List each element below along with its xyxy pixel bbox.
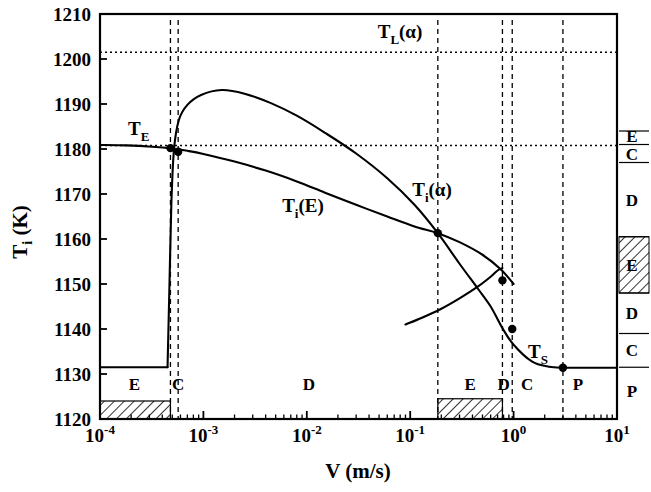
data-point: [498, 276, 506, 284]
right-column-label: P: [627, 382, 637, 401]
data-point: [174, 148, 182, 156]
svg-text:10-1: 10-1: [395, 422, 425, 446]
region-label: C: [172, 375, 184, 394]
right-column-label: D: [626, 191, 638, 210]
x-tick-label: 10-1: [395, 422, 425, 446]
y-axis-title: Ti (K): [8, 205, 35, 258]
right-column-label: D: [626, 304, 638, 323]
data-point: [508, 325, 516, 333]
data-point: [166, 144, 174, 152]
x-tick-label: 100: [501, 422, 527, 446]
y-tick-label: 1160: [54, 229, 91, 250]
bottom-region-labels: ECDEDCP: [129, 375, 584, 394]
svg-text:Ti (K): Ti (K): [8, 205, 35, 258]
annotation-t-i-a: Ti(α): [412, 179, 452, 205]
svg-text:TE: TE: [128, 118, 149, 144]
right-column-label: C: [626, 145, 638, 164]
region-label: P: [573, 375, 583, 394]
right-column-label: E: [626, 256, 637, 275]
y-tick-label: 1130: [54, 364, 91, 385]
svg-text:TL(α): TL(α): [378, 21, 423, 47]
hatched-bands: [100, 399, 502, 419]
right-legend-column: ECDEDCP: [619, 127, 649, 400]
y-tick-label: 1200: [53, 49, 91, 70]
x-tick-labels: 10-410-310-210-1100101: [85, 422, 630, 446]
y-tick-label: 1150: [54, 274, 91, 295]
y-tick-label: 1210: [53, 4, 91, 25]
data-point: [559, 364, 567, 372]
svg-text:100: 100: [501, 422, 527, 446]
phase-selection-chart: 1120113011401150116011701180119012001210…: [0, 0, 651, 492]
x-tick-label: 10-4: [85, 422, 115, 446]
hatched-band: [438, 399, 503, 419]
data-point: [434, 229, 442, 237]
annotation-t-e: TE: [128, 118, 149, 144]
curve-annotations: TETL(α)Ti(α)Ti(E)TS: [128, 21, 548, 367]
data-point-markers: [166, 144, 567, 372]
y-axis-title-unit: (K): [8, 205, 32, 241]
region-label: E: [129, 375, 140, 394]
x-axis-title: V (m/s): [325, 459, 391, 483]
svg-text:10-3: 10-3: [188, 422, 218, 446]
region-label: E: [464, 375, 475, 394]
svg-text:Ti(E): Ti(E): [282, 195, 324, 221]
svg-text:Ti(α): Ti(α): [412, 179, 452, 205]
y-tick-label: 1170: [54, 184, 91, 205]
region-label: C: [521, 375, 533, 394]
x-tick-label: 10-3: [188, 422, 218, 446]
region-label: D: [497, 375, 509, 394]
y-tick-label: 1140: [54, 319, 91, 340]
y-tick-label: 1180: [54, 139, 91, 160]
curve-lower-branch: [405, 268, 502, 324]
annotation-t-i-e: Ti(E): [282, 195, 324, 221]
hatched-band: [100, 401, 170, 419]
svg-text:10-4: 10-4: [85, 422, 115, 446]
annotation-t-l-a: TL(α): [378, 21, 423, 47]
svg-text:101: 101: [604, 422, 630, 446]
svg-text:10-2: 10-2: [292, 422, 322, 446]
x-tick-label: 101: [604, 422, 630, 446]
curve-t-ialpha: [168, 90, 563, 368]
region-label: D: [303, 375, 315, 394]
figure-root: 1120113011401150116011701180119012001210…: [0, 0, 651, 492]
y-tick-label: 1190: [54, 94, 91, 115]
vertical-dashed-lines: [170, 20, 562, 419]
x-tick-label: 10-2: [292, 422, 322, 446]
y-tick-labels: 1120113011401150116011701180119012001210: [53, 4, 91, 430]
right-column-label: C: [626, 341, 638, 360]
y-axis-title-main: T: [8, 245, 32, 259]
